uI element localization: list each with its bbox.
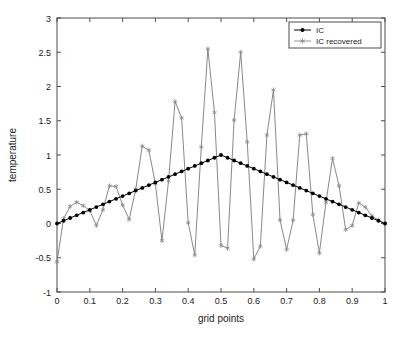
marker-ic <box>101 202 105 206</box>
marker-ic <box>383 222 387 226</box>
marker-ic <box>344 205 348 209</box>
y-tick-label: 0 <box>46 219 51 229</box>
legend-label: IC recovered <box>316 37 362 46</box>
marker-ic <box>81 211 85 215</box>
y-tick-label: 1.5 <box>38 116 51 126</box>
marker-ic <box>127 191 131 195</box>
marker-ic <box>55 222 59 226</box>
x-tick-label: 0.8 <box>313 296 326 306</box>
marker-ic <box>304 189 308 193</box>
marker-ic <box>75 213 79 217</box>
marker-ic <box>193 164 197 168</box>
chart-figure: 00.10.20.30.40.50.60.70.80.91-1-0.500.51… <box>0 0 404 339</box>
marker-ic <box>311 191 315 195</box>
x-tick-label: 0.7 <box>280 296 293 306</box>
marker-ic <box>147 183 151 187</box>
marker-ic <box>167 175 171 179</box>
marker-ic <box>272 175 276 179</box>
marker-ic <box>377 219 381 223</box>
marker-ic <box>239 161 243 165</box>
marker-ic <box>121 194 125 198</box>
y-axis-title: temperature <box>7 128 18 182</box>
marker-ic <box>350 208 354 212</box>
marker-ic <box>285 181 289 185</box>
marker-ic <box>114 197 118 201</box>
marker-ic <box>331 200 335 204</box>
x-tick-label: 0.9 <box>346 296 359 306</box>
legend-marker-ic <box>301 28 305 32</box>
marker-ic <box>298 186 302 190</box>
plot-canvas: 00.10.20.30.40.50.60.70.80.91-1-0.500.51… <box>0 0 404 339</box>
marker-ic <box>140 186 144 190</box>
marker-ic <box>68 216 72 220</box>
marker-ic <box>160 178 164 182</box>
x-tick-label: 0.1 <box>84 296 97 306</box>
marker-ic <box>363 213 367 217</box>
x-tick-label: 0 <box>54 296 59 306</box>
legend-label: IC <box>316 26 324 35</box>
marker-ic <box>318 194 322 198</box>
x-tick-label: 0.5 <box>215 296 228 306</box>
y-tick-label: 2 <box>46 82 51 92</box>
marker-ic <box>154 181 158 185</box>
marker-ic <box>173 172 177 176</box>
x-tick-label: 0.6 <box>248 296 261 306</box>
y-tick-label: 3 <box>46 14 51 24</box>
x-axis-title: grid points <box>198 313 244 324</box>
marker-ic <box>219 153 223 157</box>
marker-ic <box>180 170 184 174</box>
marker-ic <box>88 208 92 212</box>
marker-ic <box>324 197 328 201</box>
marker-ic <box>337 202 341 206</box>
x-tick-label: 0.3 <box>149 296 162 306</box>
marker-ic <box>232 159 236 163</box>
marker-ic <box>370 216 374 220</box>
marker-ic <box>265 172 269 176</box>
x-tick-label: 1 <box>382 296 387 306</box>
marker-ic <box>206 159 210 163</box>
y-tick-label: 1 <box>46 151 51 161</box>
y-tick-label: 0.5 <box>38 185 51 195</box>
marker-ic <box>134 189 138 193</box>
marker-ic <box>62 219 66 223</box>
marker-ic <box>108 200 112 204</box>
marker-ic <box>186 167 190 171</box>
marker-ic <box>226 156 230 160</box>
x-tick-label: 0.2 <box>116 296 129 306</box>
y-tick-label: 2.5 <box>38 48 51 58</box>
marker-ic <box>291 183 295 187</box>
marker-ic <box>199 161 203 165</box>
y-tick-label: -0.5 <box>35 253 51 263</box>
x-tick-label: 0.4 <box>182 296 195 306</box>
marker-ic <box>94 205 98 209</box>
marker-ic <box>357 211 361 215</box>
y-tick-label: -1 <box>43 288 51 298</box>
marker-ic <box>258 170 262 174</box>
marker-ic <box>213 156 217 160</box>
marker-ic <box>252 167 256 171</box>
marker-ic <box>278 178 282 182</box>
marker-ic <box>245 164 249 168</box>
